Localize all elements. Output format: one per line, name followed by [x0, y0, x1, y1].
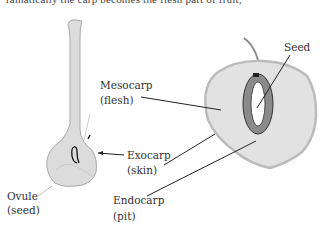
label-exocarp: Exocarp: [127, 148, 171, 163]
pistil-illustration: [47, 20, 97, 187]
label-mesocarp: Mesocarp: [100, 78, 153, 93]
label-seed: Seed: [284, 40, 310, 55]
label-exocarp-sub: (skin): [127, 163, 157, 178]
label-ovule-sub: (seed): [7, 203, 40, 218]
fruit-anatomy-diagram: ramatically the carp becomes the flesh p…: [0, 0, 323, 227]
label-endocarp: Endocarp: [113, 193, 164, 208]
label-endocarp-sub: (pit): [113, 209, 136, 224]
label-mesocarp-sub: (flesh): [100, 93, 134, 108]
label-ovule: Ovule: [7, 189, 38, 204]
